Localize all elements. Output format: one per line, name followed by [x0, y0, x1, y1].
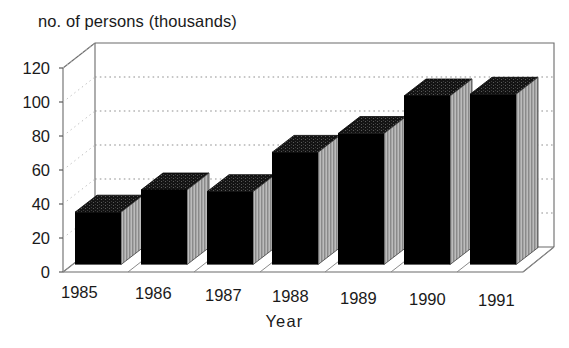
bar-1987[interactable]: [207, 175, 275, 265]
bar-1991[interactable]: [470, 77, 538, 264]
bar-1988[interactable]: [272, 135, 340, 264]
bar-1985[interactable]: [75, 195, 143, 264]
y-axis-ticks: [59, 68, 63, 272]
plot-area: [0, 0, 569, 348]
bar-1986[interactable]: [141, 173, 209, 265]
bar-chart: no. of persons (thousands) 120 100 80 60…: [0, 0, 569, 348]
bar-1989[interactable]: [338, 117, 406, 265]
bar-1990[interactable]: [404, 79, 472, 265]
